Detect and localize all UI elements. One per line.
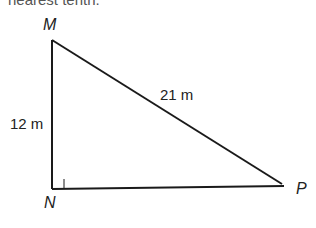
- vertex-label-n: N: [44, 194, 56, 212]
- vertex-label-p: P: [296, 180, 307, 198]
- side-np: [52, 186, 284, 189]
- side-mp: [52, 40, 282, 184]
- side-label-mp: 21 m: [160, 86, 193, 103]
- vertex-label-m: M: [43, 16, 56, 34]
- side-label-mn: 12 m: [10, 115, 43, 132]
